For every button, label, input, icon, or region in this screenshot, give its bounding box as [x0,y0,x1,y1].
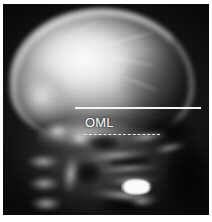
radiograph-figure: OML [0,0,212,222]
cervical-vertebra [27,154,61,170]
cervical-vertebra [31,196,63,212]
dental-restoration [121,178,155,198]
tooth-roots [127,196,157,210]
cervical-vertebra [29,176,61,192]
radiograph-image: OML [3,4,209,215]
